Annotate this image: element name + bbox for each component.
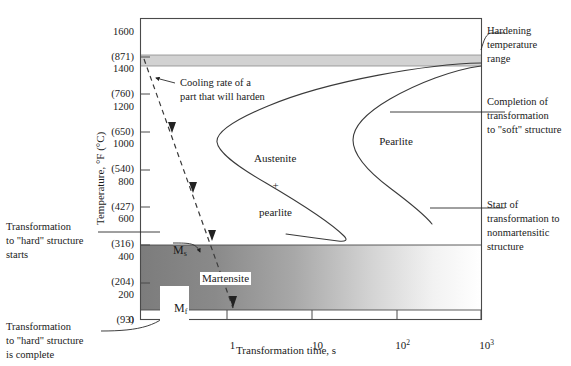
austenite-pearlite-label: Austenite + pearlite xyxy=(230,139,310,233)
y-tick-400-f: 400 xyxy=(118,251,134,262)
x-tick-1000-value: 10 xyxy=(479,339,490,351)
ttt-diagram-figure: Temperature, °F (°C) 1600 (871) 1400 (76… xyxy=(0,0,571,366)
annotation-hardening-temperature-range: Hardening temperature range xyxy=(487,24,537,66)
annotation-transformation-hard-complete: Transformation to "hard" structure is co… xyxy=(6,320,83,362)
cooling-rate-leader xyxy=(156,78,175,83)
x-tick-1-value: 1 xyxy=(230,339,236,351)
annotation-start-of-transformation: Start of transformation to nonmartensiti… xyxy=(487,198,560,253)
y-tick-1600-f: 1600 xyxy=(113,26,134,37)
cooling-rate-label: Cooling rate of a part that will harden xyxy=(180,76,265,104)
mf-label-sub: f xyxy=(185,307,188,316)
x-tick-100: 102 xyxy=(382,326,412,366)
martensite-label: Martensite xyxy=(200,272,251,285)
austenite-line: Austenite xyxy=(254,152,296,164)
martensite-region-band xyxy=(141,245,481,310)
pearlite-line: pearlite xyxy=(259,206,292,218)
y-tick-0: 0 xyxy=(98,314,134,327)
x-axis-title: Transformation time, s xyxy=(236,344,336,357)
cooling-rate-arrow-3 xyxy=(208,230,216,241)
ms-label-sub: s xyxy=(184,249,187,258)
annotation-completion-of-transformation: Completion of transformation to "soft" s… xyxy=(487,95,561,137)
cooling-rate-arrow-1 xyxy=(168,122,176,133)
ms-label-letter: M xyxy=(173,243,184,257)
x-tick-100-exp: 2 xyxy=(406,338,410,347)
hardening-temperature-band xyxy=(141,55,481,66)
mf-label: Mf xyxy=(160,286,189,330)
y-tick-1200-f: 1200 xyxy=(113,101,134,112)
plus-line: + xyxy=(272,179,278,191)
y-tick-1000-f: 1000 xyxy=(113,138,134,149)
y-tick-800-f: 800 xyxy=(118,176,134,187)
mf-label-letter: M xyxy=(174,301,185,315)
y-tick-200-f: 200 xyxy=(118,289,134,300)
x-tick-100-value: 10 xyxy=(395,339,406,351)
x-axis-ticks xyxy=(227,310,481,320)
annotation-transformation-hard-starts: Transformation to "hard" structure start… xyxy=(6,220,83,262)
y-tick-1400-f: 1400 xyxy=(113,63,134,74)
x-tick-1000: 103 xyxy=(466,326,496,366)
y-tick-600-f: 600 xyxy=(118,213,134,224)
pearlite-label: Pearlite xyxy=(366,135,426,148)
ms-label: Ms xyxy=(161,228,187,272)
x-tick-1000-exp: 3 xyxy=(490,338,494,347)
